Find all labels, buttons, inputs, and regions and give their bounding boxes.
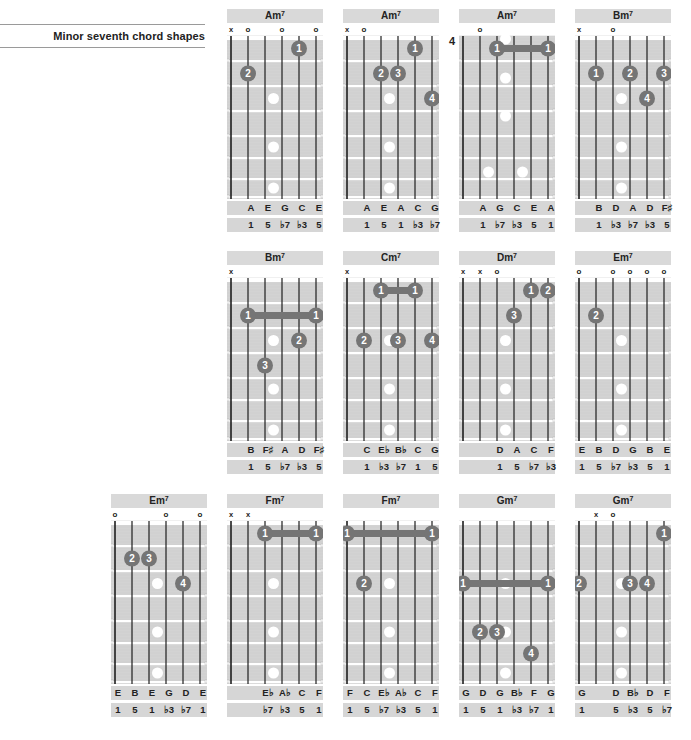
note-names-row: BDADF♯ [575, 201, 671, 215]
note-name: A [626, 201, 640, 215]
finger-dot: 3 [390, 66, 406, 82]
interval-label: 5 [510, 460, 524, 474]
svg-text:1: 1 [412, 43, 418, 54]
note-name: E [660, 443, 674, 457]
finger-dot: 3 [489, 624, 505, 640]
note-name: C [295, 201, 309, 215]
open-string-marker: o [611, 267, 616, 276]
fret-inlay-dot [500, 111, 511, 122]
chord-diagram-em7-1: Em7ooooo2EBDGBE15♭7♭351 [575, 251, 671, 476]
muted-string-marker: x [577, 25, 582, 34]
note-name: C [295, 686, 309, 700]
chord-diagram-am7-2: Am7xo1234AEACG151♭3♭7 [343, 9, 439, 234]
note-name: B♭ [626, 686, 640, 700]
note-name: F [343, 686, 357, 700]
intervals-row: 15♭35♭7 [575, 703, 671, 717]
muted-string-marker: x [246, 510, 251, 519]
fret-inlay-dot [500, 668, 511, 679]
note-name: B [244, 443, 258, 457]
chord-diagram-gm7-1: Gm711234GDGB♭FG151♭3♭71 [459, 494, 555, 719]
chord-title: Cm7 [343, 251, 439, 265]
interval-label: 1 [493, 460, 507, 474]
chord-extension: 7 [397, 252, 401, 259]
svg-text:2: 2 [296, 335, 302, 346]
chord-name: Am [381, 10, 397, 21]
chord-name: Gm [497, 495, 514, 506]
fret-inlay-dot [384, 93, 395, 104]
chord-name: Gm [613, 495, 630, 506]
chord-title: Fm7 [227, 494, 323, 508]
note-names-row: AGCEA [459, 201, 555, 215]
note-name: D [493, 443, 507, 457]
interval-label: 1 [312, 703, 326, 717]
open-string-marker: o [611, 25, 616, 34]
interval-label: ♭7 [394, 460, 408, 474]
note-name: D [643, 686, 657, 700]
interval-label: 1 [544, 703, 558, 717]
finger-dot: 2 [356, 576, 372, 592]
svg-text:2: 2 [361, 335, 367, 346]
note-names-row: EBDGBE [575, 443, 671, 457]
fretboard: x1123 [227, 265, 323, 460]
interval-label: ♭7 [278, 218, 292, 232]
note-name: B♭ [510, 686, 524, 700]
fret-inlay-dot [483, 167, 494, 178]
open-string-marker: o [478, 25, 483, 34]
interval-label: 1 [476, 218, 490, 232]
interval-label: ♭3 [510, 218, 524, 232]
interval-label: 1 [411, 460, 425, 474]
open-string-marker: o [662, 267, 667, 276]
heading-rule-bottom [0, 47, 205, 48]
fret-inlay-dot [500, 73, 511, 84]
fret-inlay-dot [268, 93, 279, 104]
svg-text:4: 4 [180, 578, 186, 589]
chord-title: Bm7 [575, 9, 671, 23]
chord-diagram-bm7-2: Bm7x1123BF♯ADF♯15♭7♭35 [227, 251, 323, 476]
note-name: E♭ [377, 443, 391, 457]
note-name: G [544, 686, 558, 700]
chord-title: Am7 [459, 9, 555, 23]
note-name: C [527, 443, 541, 457]
note-name: E [196, 686, 210, 700]
fret-inlay-dot [268, 425, 279, 436]
chord-diagram-bm7-1: Bm7xo1234BDADF♯1♭3♭7♭35 [575, 9, 671, 234]
svg-text:1: 1 [593, 68, 599, 79]
interval-label: 5 [609, 703, 623, 717]
interval-label: 5 [428, 460, 442, 474]
muted-string-marker: x [229, 510, 234, 519]
open-string-marker: o [611, 510, 616, 519]
muted-string-marker: x [229, 267, 234, 276]
finger-dot: 3 [506, 308, 522, 324]
interval-label: ♭7 [179, 703, 193, 717]
svg-text:2: 2 [627, 68, 633, 79]
interval-label: ♭3 [626, 460, 640, 474]
svg-text:2: 2 [545, 285, 551, 296]
fretboard: xx11 [227, 508, 323, 703]
chord-extension: 7 [513, 495, 517, 502]
fretboard: 11234 [459, 508, 555, 703]
chord-title: Gm7 [459, 494, 555, 508]
note-name: E♭ [377, 686, 391, 700]
interval-label: ♭7 [527, 460, 541, 474]
note-names-row: FCE♭A♭CF [343, 686, 439, 700]
interval-label: ♭3 [626, 703, 640, 717]
note-name: D [609, 686, 623, 700]
interval-label: ♭7 [428, 218, 442, 232]
note-name: A [278, 443, 292, 457]
interval-label: 1 [145, 703, 159, 717]
chord-title: Em7 [111, 494, 207, 508]
note-name: F [527, 686, 541, 700]
open-string-marker: o [164, 510, 169, 519]
interval-label: ♭7 [660, 703, 674, 717]
chord-diagram-am7-3: Am7o114AGCEA1♭7♭351 [459, 9, 555, 234]
fret-inlay-dot [616, 627, 627, 638]
note-name: A♭ [278, 686, 292, 700]
note-names-row: CE♭B♭CG [343, 443, 439, 457]
chord-title: Am7 [227, 9, 323, 23]
chord-diagram-fm7-2: Fm7112FCE♭A♭CF15♭7♭351 [343, 494, 439, 719]
fretboard: ooo234 [111, 508, 207, 703]
interval-label: 1 [428, 703, 442, 717]
page-title: Minor seventh chord shapes [0, 25, 205, 47]
chord-extension: 7 [281, 10, 285, 17]
fret-inlay-dot [616, 668, 627, 679]
